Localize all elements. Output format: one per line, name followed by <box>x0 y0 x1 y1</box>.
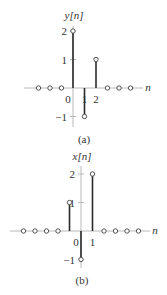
stem-plots: 21−1012y[n]n(a) 21−101x[n]n(b) <box>0 0 167 295</box>
sample-marker <box>48 86 52 90</box>
x-axis-label: n <box>145 81 151 93</box>
y-tick-label: 2 <box>70 168 76 180</box>
sample-marker <box>82 114 86 118</box>
stem-plot-x: 21−101x[n]n(b) <box>10 150 158 287</box>
x-axis-label: n <box>152 224 158 236</box>
sample-marker <box>125 229 129 233</box>
sample-marker <box>117 86 121 90</box>
x-tick-label: 0 <box>73 236 79 248</box>
x-tick-label: 0 <box>65 93 71 105</box>
stem-plot-y: 21−1012y[n]n(a) <box>24 9 151 146</box>
sample-marker <box>79 257 83 261</box>
sample-marker <box>36 86 40 90</box>
x-tick-label: 1 <box>90 236 96 248</box>
sample-marker <box>33 229 37 233</box>
y-tick-label: −1 <box>63 254 75 266</box>
sample-marker <box>128 86 132 90</box>
y-tick-label: −1 <box>55 111 67 123</box>
sample-marker <box>113 229 117 233</box>
plot-title: x[n] <box>72 150 92 162</box>
sample-marker <box>136 229 140 233</box>
x-tick-label: 2 <box>93 93 99 105</box>
plot-title: y[n] <box>64 9 84 21</box>
sample-marker <box>90 172 94 176</box>
y-tick-label: 2 <box>62 25 68 37</box>
sample-marker <box>102 229 106 233</box>
sample-marker <box>56 229 60 233</box>
figure-caption: (a) <box>78 133 91 146</box>
sample-marker <box>44 229 48 233</box>
sample-marker <box>21 229 25 233</box>
sample-marker <box>94 57 98 61</box>
sample-marker <box>59 86 63 90</box>
figure-caption: (b) <box>76 274 89 287</box>
y-tick-label: 1 <box>62 54 68 66</box>
sample-marker <box>105 86 109 90</box>
sample-marker <box>71 29 75 33</box>
sample-marker <box>67 200 71 204</box>
